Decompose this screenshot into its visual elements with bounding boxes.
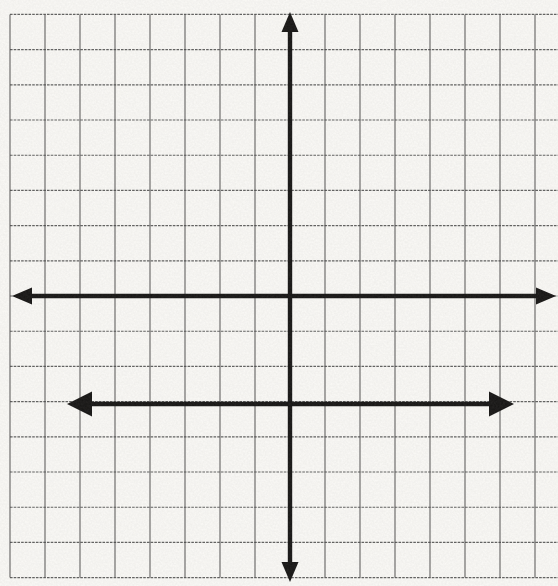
paper-texture: [0, 0, 558, 586]
worksheet-page: [0, 0, 558, 586]
coordinate-grid: [0, 0, 558, 586]
